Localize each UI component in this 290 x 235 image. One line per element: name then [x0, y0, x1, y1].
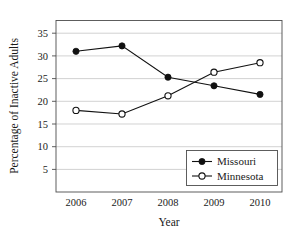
gridlines — [56, 33, 282, 169]
series-missouri-line — [76, 46, 260, 95]
x-axis-title: Year — [158, 216, 179, 228]
x-tick-label-2009: 2009 — [204, 197, 225, 208]
series-minnesota-line — [76, 63, 260, 114]
data-point-missouri-2010 — [257, 91, 263, 97]
chart-legend: Missouri Minnesota — [187, 151, 278, 186]
y-axis-tick-labels: 35 30 25 20 15 10 5 — [38, 28, 49, 175]
data-point-missouri-2008 — [165, 74, 171, 80]
chart-canvas: 35 30 25 20 15 10 5 2006 2007 2008 2009 … — [0, 0, 290, 235]
data-point-missouri-2007 — [119, 43, 125, 49]
y-tick-label-35: 35 — [38, 28, 49, 39]
x-tick-label-2010: 2010 — [250, 197, 271, 208]
data-point-missouri-2006 — [73, 48, 79, 54]
data-point-minnesota-2010 — [257, 60, 263, 66]
y-tick-label-20: 20 — [38, 96, 49, 107]
y-axis-ticks — [52, 33, 56, 169]
series-missouri — [73, 43, 263, 98]
y-tick-label-25: 25 — [38, 73, 49, 84]
data-point-missouri-2009 — [211, 83, 217, 89]
y-tick-label-30: 30 — [38, 51, 49, 62]
y-tick-label-5: 5 — [43, 164, 48, 175]
legend-label-missouri: Missouri — [217, 155, 256, 167]
data-point-minnesota-2007 — [119, 111, 125, 117]
data-point-minnesota-2006 — [73, 107, 79, 113]
legend-marker-missouri-icon — [199, 158, 205, 164]
y-axis-title: Percentage of Inactive Adults — [8, 38, 21, 174]
legend-label-minnesota: Minnesota — [217, 170, 264, 182]
legend-marker-minnesota-icon — [199, 173, 205, 179]
y-tick-label-15: 15 — [38, 119, 49, 130]
data-point-minnesota-2009 — [211, 69, 217, 75]
line-chart: 35 30 25 20 15 10 5 2006 2007 2008 2009 … — [0, 0, 290, 235]
x-tick-label-2008: 2008 — [158, 197, 179, 208]
series-minnesota — [73, 60, 263, 117]
x-tick-label-2006: 2006 — [66, 197, 87, 208]
y-tick-label-10: 10 — [38, 141, 49, 152]
x-axis-tick-labels: 2006 2007 2008 2009 2010 — [66, 197, 271, 208]
data-point-minnesota-2008 — [165, 93, 171, 99]
x-tick-label-2007: 2007 — [112, 197, 133, 208]
